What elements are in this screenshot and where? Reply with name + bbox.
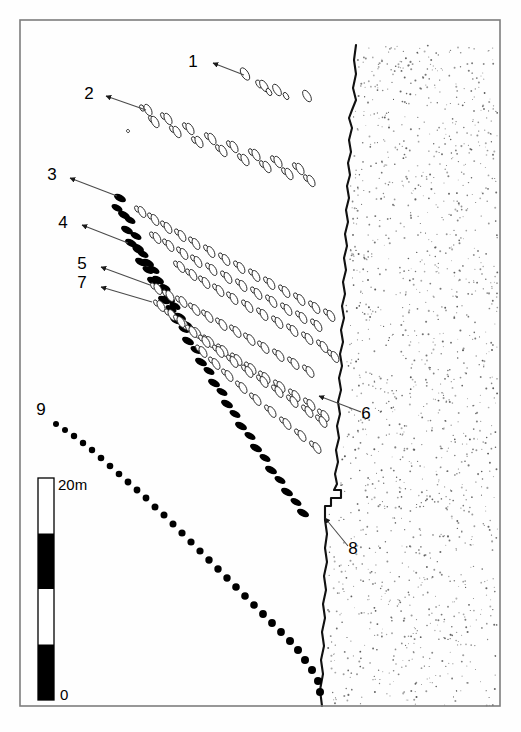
footprint xyxy=(214,565,221,572)
footprint xyxy=(223,574,230,581)
scale-bar-segment xyxy=(38,589,54,645)
footprint xyxy=(277,628,285,636)
trackway-label-2: 2 xyxy=(84,84,93,103)
trackway-label-6: 6 xyxy=(361,404,370,423)
footprint xyxy=(134,487,141,494)
scale-bar-segment xyxy=(38,645,54,701)
footprint xyxy=(286,637,294,645)
trackway-label-5: 5 xyxy=(77,254,86,273)
trackway-label-9: 9 xyxy=(36,400,45,419)
footprint xyxy=(116,471,123,478)
footprint xyxy=(80,440,86,446)
footprint xyxy=(98,455,105,462)
footprint xyxy=(314,677,322,685)
footprint xyxy=(205,556,212,563)
footprint xyxy=(89,447,95,453)
scale-bar-segment xyxy=(38,478,54,534)
footprint xyxy=(187,538,194,545)
trackway-label-4: 4 xyxy=(58,213,67,232)
trackway-map-canvas: 123457968 20m0 xyxy=(0,0,521,732)
footprint xyxy=(232,583,240,591)
trackway-figure: 123457968 20m0 xyxy=(0,0,521,732)
footprint xyxy=(241,592,249,600)
footprint xyxy=(316,688,324,696)
footprint xyxy=(259,610,267,618)
trackway-label-7: 7 xyxy=(77,273,86,292)
trackway-label-3: 3 xyxy=(47,165,56,184)
footprint xyxy=(196,547,203,554)
footprint xyxy=(62,427,68,433)
scale-bar-top-label: 20m xyxy=(58,476,87,493)
footprint xyxy=(125,479,132,486)
footprint xyxy=(250,601,258,609)
footprint xyxy=(71,433,77,439)
footprint xyxy=(53,421,59,427)
footprint xyxy=(143,495,150,502)
trackway-label-8: 8 xyxy=(348,539,357,558)
footprint xyxy=(301,656,309,664)
scale-bar-segment xyxy=(38,534,54,590)
footprint xyxy=(107,463,114,470)
footprint xyxy=(308,666,316,674)
footprint xyxy=(170,521,177,528)
figure-background xyxy=(0,0,521,732)
footprint xyxy=(294,646,302,654)
footprint xyxy=(178,529,185,536)
trackway-label-1: 1 xyxy=(188,52,197,71)
footprint xyxy=(161,512,168,519)
scale-bar-bottom-label: 0 xyxy=(60,686,68,703)
footprint xyxy=(268,619,276,627)
footprint xyxy=(152,504,159,511)
